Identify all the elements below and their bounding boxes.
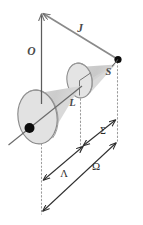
omega-dimension-line [43,143,116,211]
axis-label-O: O [27,45,35,57]
sigma-label: Σ [100,126,106,136]
total-momentum-label-J: J [76,22,84,34]
spin-cone-label-S: S [106,66,112,77]
omega-label: Ω [92,160,100,172]
orbital-cone-label-L: L [68,97,75,108]
lambda-label: Λ [60,168,68,179]
origin-particle-dot [25,123,35,133]
total-angular-momentum-arrow [43,14,117,59]
figure-canvas: O J S L Σ Λ Ω [0,0,143,225]
geometry-diagram: O J S L Σ Λ Ω [0,0,143,225]
